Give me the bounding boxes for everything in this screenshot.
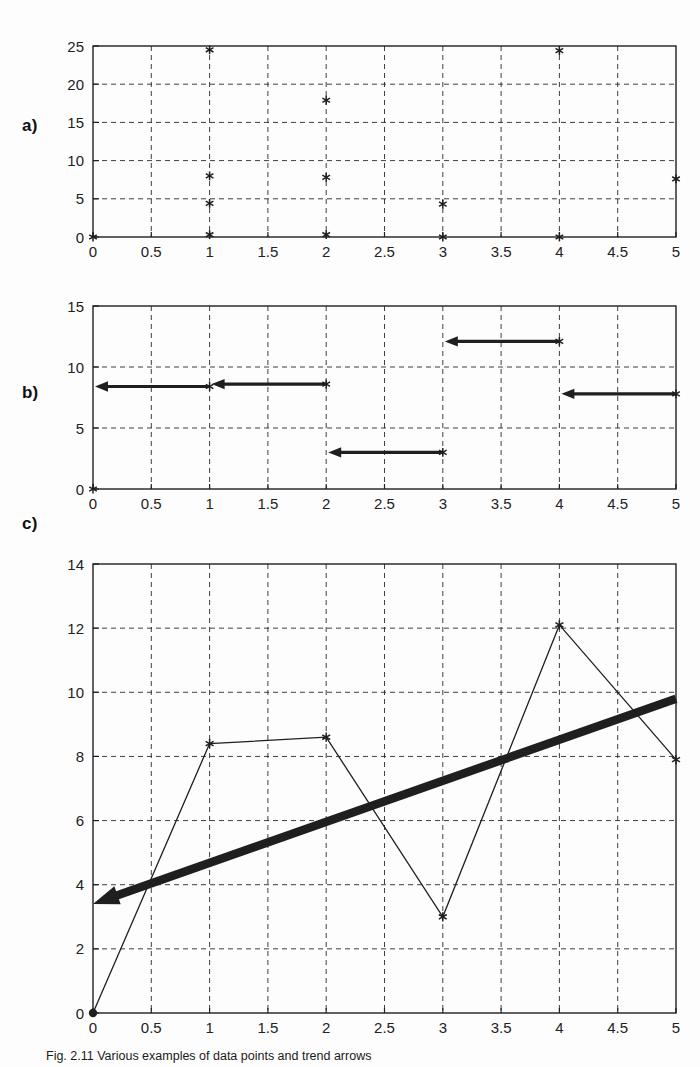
y-axis: 02468101214 — [67, 556, 99, 1022]
x-tick-label: 5 — [672, 1019, 680, 1036]
panel-c-plot: 00.511.522.533.544.5502468101214 — [0, 512, 700, 1040]
x-tick-label: 1.5 — [257, 495, 278, 512]
hold-arrow-left — [445, 336, 560, 346]
x-tick-label: 2.5 — [374, 495, 395, 512]
y-tick-label: 25 — [67, 38, 84, 55]
x-tick-label: 2 — [322, 495, 330, 512]
x-tick-label: 0 — [89, 243, 97, 260]
figure-root: a) 00.511.522.533.544.550510152025 b) 00… — [0, 0, 700, 1067]
hold-arrow-left — [212, 379, 327, 389]
panel-a-label: a) — [22, 116, 38, 136]
hold-arrow-left — [561, 389, 676, 399]
x-tick-label: 4.5 — [607, 1019, 628, 1036]
y-tick-label: 2 — [76, 940, 84, 957]
x-tick-label: 0.5 — [141, 1019, 162, 1036]
x-axis: 00.511.522.533.544.55 — [89, 484, 680, 512]
x-tick-label: 4 — [555, 495, 563, 512]
y-tick-label: 12 — [67, 620, 84, 637]
x-tick-label: 4 — [555, 1019, 563, 1036]
y-tick-label: 15 — [67, 298, 84, 315]
hold-arrow-left — [95, 381, 210, 391]
x-tick-label: 1 — [205, 1019, 213, 1036]
data-point-marker — [206, 45, 214, 54]
data-point-marker — [322, 96, 330, 105]
y-tick-label: 5 — [76, 190, 84, 207]
x-axis: 00.511.522.533.544.55 — [89, 1008, 680, 1036]
data-point-marker — [322, 230, 330, 239]
grid-lines — [93, 564, 676, 1013]
data-point-marker — [206, 171, 214, 180]
x-tick-label: 0 — [89, 495, 97, 512]
x-tick-label: 3 — [439, 243, 447, 260]
y-tick-label: 15 — [67, 114, 84, 131]
hold-arrow-left — [328, 447, 443, 457]
data-point-marker — [672, 175, 680, 184]
y-tick-label: 0 — [76, 229, 84, 246]
x-tick-label: 3 — [439, 1019, 447, 1036]
x-tick-label: 4.5 — [607, 243, 628, 260]
y-tick-label: 0 — [76, 481, 84, 498]
origin-marker — [89, 1009, 97, 1017]
data-point-marker — [556, 46, 564, 55]
x-tick-label: 1.5 — [257, 1019, 278, 1036]
y-tick-label: 0 — [76, 1005, 84, 1022]
hold-arrows — [95, 336, 676, 457]
x-tick-label: 1.5 — [257, 243, 278, 260]
y-tick-label: 10 — [67, 684, 84, 701]
y-tick-label: 6 — [76, 812, 84, 829]
y-tick-label: 20 — [67, 76, 84, 93]
figure-caption: Fig. 2.11 Various examples of data point… — [46, 1049, 666, 1067]
grid-lines — [93, 46, 676, 237]
y-tick-label: 10 — [67, 152, 84, 169]
y-tick-label: 4 — [76, 876, 84, 893]
x-tick-label: 4.5 — [607, 495, 628, 512]
x-tick-label: 1 — [205, 243, 213, 260]
x-tick-label: 5 — [672, 243, 680, 260]
y-axis: 051015 — [67, 298, 99, 498]
y-axis: 0510152025 — [67, 38, 99, 246]
panel-b-label: b) — [22, 383, 38, 403]
x-tick-label: 0.5 — [141, 495, 162, 512]
x-tick-label: 5 — [672, 495, 680, 512]
data-point-marker — [439, 200, 447, 209]
panel-a-plot: 00.511.522.533.544.550510152025 — [0, 18, 700, 280]
x-tick-label: 1 — [205, 495, 213, 512]
x-tick-label: 2.5 — [374, 243, 395, 260]
y-tick-label: 5 — [76, 420, 84, 437]
x-tick-label: 3.5 — [491, 495, 512, 512]
x-tick-label: 2.5 — [374, 1019, 395, 1036]
x-tick-label: 3 — [439, 495, 447, 512]
y-tick-label: 10 — [67, 359, 84, 376]
data-point-marker — [322, 173, 330, 182]
data-point-marker — [206, 199, 214, 208]
x-tick-label: 0.5 — [141, 243, 162, 260]
grid-lines — [93, 306, 676, 489]
panel-c-label: c) — [22, 514, 38, 534]
x-tick-label: 0 — [89, 1019, 97, 1036]
x-axis: 00.511.522.533.544.55 — [89, 232, 680, 260]
x-tick-label: 2 — [322, 1019, 330, 1036]
panel-a: a) 00.511.522.533.544.550510152025 — [0, 18, 700, 280]
panel-b-plot: 00.511.522.533.544.55051015 — [0, 288, 700, 520]
panel-c: c) 00.511.522.533.544.5502468101214 — [0, 512, 700, 1040]
data-point-marker — [206, 230, 214, 239]
panel-b: b) 00.511.522.533.544.55051015 — [0, 288, 700, 520]
x-tick-label: 3.5 — [491, 243, 512, 260]
y-tick-label: 14 — [67, 556, 84, 573]
x-tick-label: 2 — [322, 243, 330, 260]
x-tick-label: 4 — [555, 243, 563, 260]
y-tick-label: 8 — [76, 748, 84, 765]
x-tick-label: 3.5 — [491, 1019, 512, 1036]
